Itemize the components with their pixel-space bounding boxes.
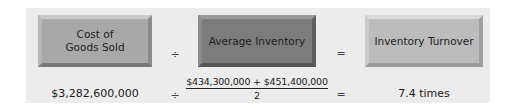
equals-symbol: = xyxy=(331,47,351,60)
equals-symbol: = xyxy=(331,88,351,101)
divide-symbol: ÷ xyxy=(165,48,185,61)
cost-of-goods-sold-value: $3,282,600,000 xyxy=(38,87,152,100)
label-line-1: Cost of xyxy=(77,28,114,40)
cost-of-goods-sold-box: Cost of Goods Sold xyxy=(38,15,152,67)
fraction-denominator: 2 xyxy=(186,89,328,101)
formula-panel: Cost of Goods Sold ÷ Average Inventory =… xyxy=(26,8,490,103)
divide-symbol: ÷ xyxy=(165,89,185,102)
label-line-2: Goods Sold xyxy=(65,41,124,53)
inventory-turnover-box: Inventory Turnover xyxy=(365,15,483,67)
cost-of-goods-sold-label: Cost of Goods Sold xyxy=(59,28,130,54)
average-inventory-label: Average Inventory xyxy=(203,35,312,48)
average-inventory-fraction: $434,300,000 + $451,400,000 2 xyxy=(186,76,328,101)
fraction-numerator: $434,300,000 + $451,400,000 xyxy=(186,76,328,89)
average-inventory-box: Average Inventory xyxy=(198,15,316,67)
inventory-turnover-label: Inventory Turnover xyxy=(368,35,479,48)
inventory-turnover-value: 7.4 times xyxy=(365,87,483,100)
